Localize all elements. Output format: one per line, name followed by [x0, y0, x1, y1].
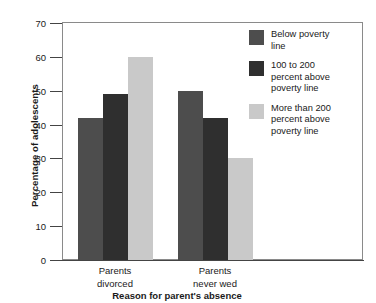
legend-label: More than 200percent abovepoverty line [271, 103, 331, 138]
bar [103, 94, 128, 260]
legend-label-line: More than 200 [271, 103, 331, 115]
legend-label-line: 100 to 200 [271, 60, 330, 72]
y-axis-tick [50, 260, 62, 261]
chart-legend: Below povertyline100 to 200percent above… [249, 29, 357, 145]
bar [128, 57, 153, 260]
x-axis-tick-label-line: never wed [155, 277, 275, 290]
legend-swatch-icon [249, 30, 264, 45]
y-axis-tick-label: 60 [22, 51, 46, 62]
y-axis-tick-label: 30 [22, 153, 46, 164]
legend-item[interactable]: 100 to 200percent abovepoverty line [249, 60, 357, 95]
y-axis-tick [50, 57, 62, 58]
legend-swatch-icon [249, 61, 264, 76]
legend-item[interactable]: More than 200percent abovepoverty line [249, 103, 357, 138]
bar [78, 118, 103, 260]
y-axis-tick [50, 23, 62, 24]
legend-label-line: percent above [271, 114, 331, 126]
x-axis-tick-label-line: Parents [155, 264, 275, 277]
y-axis-tick [50, 91, 62, 92]
x-axis-tick-label: Parentsnever wed [155, 264, 275, 290]
y-axis-tick-label: 40 [22, 119, 46, 130]
legend-label-line: percent above [271, 72, 330, 84]
chart-figure: Percentage of adolescents 01020304050607… [0, 0, 376, 303]
y-axis-tick [50, 226, 62, 227]
y-axis-tick-label: 0 [22, 255, 46, 266]
y-axis-tick-label: 70 [22, 18, 46, 29]
legend-label-line: poverty line [271, 126, 331, 138]
legend-label: 100 to 200percent abovepoverty line [271, 60, 330, 95]
legend-item[interactable]: Below povertyline [249, 29, 357, 52]
bar [228, 158, 253, 260]
y-axis-tick-label: 50 [22, 85, 46, 96]
y-axis-tick [50, 192, 62, 193]
x-axis-title: Reason for parent's absence [62, 290, 292, 301]
legend-label-line: poverty line [271, 83, 330, 95]
y-axis-tick-label: 20 [22, 187, 46, 198]
y-axis-tick [50, 158, 62, 159]
legend-label-line: line [271, 41, 329, 53]
legend-swatch-icon [249, 104, 264, 119]
y-axis-title: Percentage of adolescents [29, 51, 40, 241]
x-axis-line [62, 260, 364, 261]
legend-label: Below povertyline [271, 29, 329, 52]
y-axis-tick-label: 10 [22, 221, 46, 232]
bar [178, 91, 203, 260]
y-axis-tick [50, 125, 62, 126]
bar [203, 118, 228, 260]
legend-label-line: Below poverty [271, 29, 329, 41]
